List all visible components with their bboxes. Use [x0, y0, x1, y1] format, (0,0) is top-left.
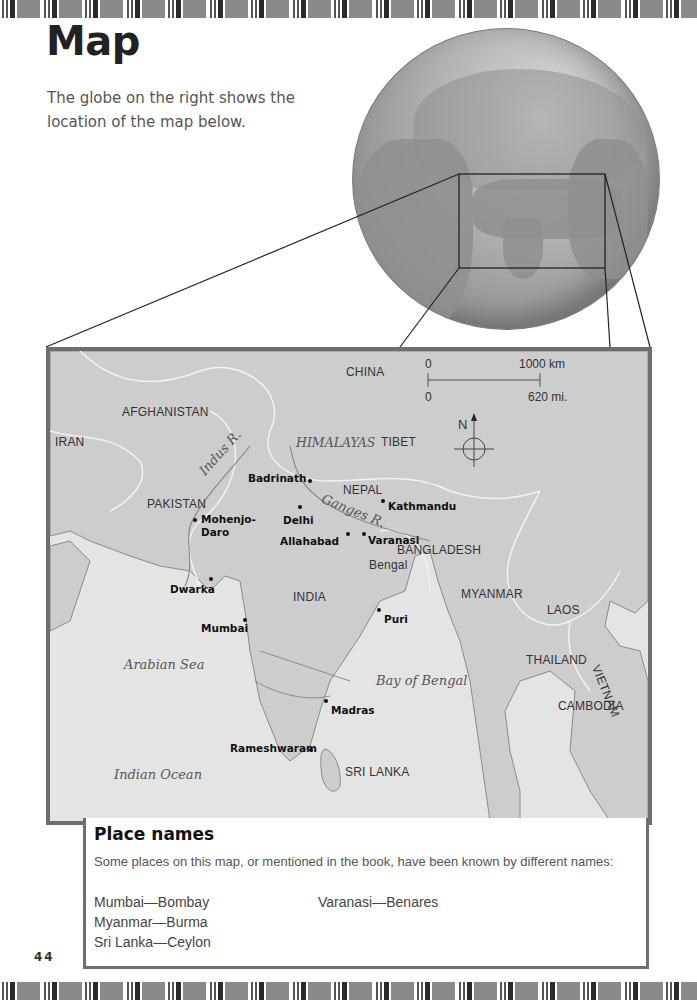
label-china: CHINA: [346, 365, 384, 379]
scale-bar: [426, 371, 546, 391]
label-indian-ocean: Indian Ocean: [114, 767, 202, 782]
label-thailand: THAILAND: [526, 653, 587, 667]
city-dot-varanasi: [362, 532, 366, 536]
globe-image: [352, 28, 660, 330]
scale-mi-end: 620 mi.: [528, 390, 567, 404]
label-afghanistan: AFGHANISTAN: [122, 405, 209, 419]
label-varanasi: Varanasi: [368, 534, 419, 546]
label-badrinath: Badrinath: [248, 472, 306, 484]
label-mumbai: Mumbai: [201, 622, 248, 634]
place-name-pair: Sri Lanka—Ceylon: [94, 934, 211, 950]
city-dot-mohenjo-daro: [193, 518, 197, 522]
scale-km-start: 0: [425, 357, 432, 371]
label-sri-lanka: SRI LANKA: [345, 765, 410, 779]
label-nepal: NEPAL: [343, 483, 382, 497]
label-bengal: Bengal: [369, 558, 408, 572]
city-dot-kathmandu: [381, 499, 385, 503]
city-dot-delhi: [298, 505, 302, 509]
label-pakistan: PAKISTAN: [147, 497, 206, 511]
place-names-title: Place names: [94, 824, 214, 844]
scale-mi-start: 0: [425, 390, 432, 404]
label-laos: LAOS: [547, 603, 580, 617]
page-number: 44: [34, 950, 55, 964]
label-bay-of-bengal: Bay of Bengal: [376, 673, 467, 688]
label-tibet: TIBET: [381, 435, 416, 449]
decorative-top-border: [0, 0, 697, 18]
place-name-pair: Myanmar—Burma: [94, 914, 208, 930]
compass-rose-icon: [452, 411, 496, 469]
map-land-shapes: [50, 351, 648, 821]
label-madras: Madras: [331, 704, 375, 716]
label-kathmandu: Kathmandu: [388, 500, 456, 512]
label-india: INDIA: [293, 590, 326, 604]
label-rameshwaram: Rameshwaram: [230, 742, 317, 754]
place-name-pair: Mumbai—Bombay: [94, 894, 209, 910]
label-himalayas: HIMALAYAS: [296, 435, 375, 450]
label-puri: Puri: [384, 613, 408, 625]
city-dot-badrinath: [308, 479, 312, 483]
label-allahabad: Allahabad: [280, 535, 339, 547]
label-arabian-sea: Arabian Sea: [124, 657, 204, 672]
city-dot-puri: [377, 608, 381, 612]
decorative-bottom-border: [0, 982, 697, 1000]
intro-text: The globe on the right shows the locatio…: [47, 86, 297, 134]
map-of-south-asia: CHINA AFGHANISTAN IRAN TIBET PAKISTAN NE…: [46, 347, 652, 825]
label-myanmar: MYANMAR: [461, 587, 523, 601]
label-delhi: Delhi: [283, 514, 314, 526]
label-dwarka: Dwarka: [170, 583, 215, 595]
label-cambodia: CAMBODIA: [558, 699, 624, 713]
city-dot-madras: [324, 699, 328, 703]
city-dot-allahabad: [346, 532, 350, 536]
place-names-description: Some places on this map, or mentioned in…: [94, 852, 634, 872]
label-mohenjo-daro-line2: Daro: [201, 526, 229, 538]
page-title: Map: [46, 18, 140, 64]
scale-km-end: 1000 km: [519, 357, 565, 371]
label-mohenjo-daro-line1: Mohenjo-: [201, 513, 256, 525]
place-name-pair: Varanasi—Benares: [318, 894, 438, 910]
place-names-box: Place names Some places on this map, or …: [83, 818, 649, 969]
city-dot-dwarka: [209, 577, 213, 581]
label-iran: IRAN: [55, 435, 84, 449]
